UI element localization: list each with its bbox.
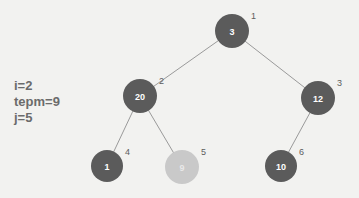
- tree-edge-n2-n4: [113, 110, 133, 152]
- tree-node-1[interactable]: 31: [215, 11, 256, 48]
- node-index-label-4: 4: [125, 147, 130, 157]
- node-index-label-5: 5: [201, 147, 206, 157]
- tree-node-3[interactable]: 123: [301, 78, 342, 115]
- tree-node-2[interactable]: 202: [123, 76, 164, 113]
- tree-nodes: 312021231495106: [91, 11, 342, 184]
- node-value-2: 20: [135, 92, 145, 102]
- node-index-label-3: 3: [337, 78, 342, 88]
- tree-edge-n2-n5: [148, 110, 174, 153]
- node-index-label-2: 2: [159, 76, 164, 86]
- tree-node-6[interactable]: 106: [265, 147, 304, 182]
- node-value-3: 12: [313, 94, 323, 104]
- node-value-1: 3: [229, 27, 234, 37]
- node-value-5: 9: [179, 163, 184, 173]
- node-value-6: 10: [276, 162, 286, 172]
- tree-node-5[interactable]: 95: [165, 147, 206, 184]
- tree-node-4[interactable]: 14: [91, 147, 130, 182]
- binary-tree-diagram: 312021231495106: [0, 0, 359, 198]
- node-value-4: 1: [104, 162, 109, 172]
- node-index-label-1: 1: [251, 11, 256, 21]
- node-index-label-6: 6: [299, 147, 304, 157]
- tree-edge-n1-n3: [245, 41, 306, 88]
